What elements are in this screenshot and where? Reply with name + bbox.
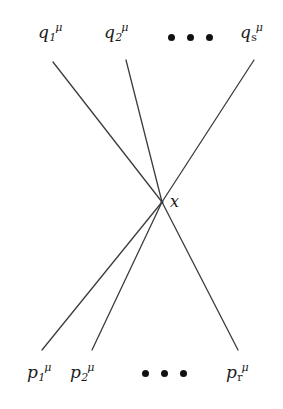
momentum-label-p1: p1μ (27, 362, 51, 383)
top-ellipsis (168, 34, 213, 41)
ellipsis-dot (142, 370, 149, 377)
label-superscript-mu: μ (121, 21, 128, 34)
ellipsis-dot (161, 370, 168, 377)
line-pr (162, 202, 238, 350)
label-superscript-mu: μ (55, 21, 62, 34)
label-base: p (226, 362, 237, 382)
momentum-label-q2: q2μ (104, 22, 128, 43)
line-qs (162, 60, 254, 202)
line-q1 (53, 62, 162, 202)
ellipsis-dot (187, 34, 194, 41)
label-base: q (240, 22, 251, 42)
label-superscript-mu: μ (44, 361, 51, 374)
momentum-label-qs: qsμ (240, 22, 263, 43)
momentum-label-p2: p2μ (70, 362, 94, 383)
vertex-label-x: x (170, 194, 179, 210)
line-q2 (126, 60, 162, 202)
ellipsis-dot (180, 370, 187, 377)
label-superscript-mu: μ (87, 361, 94, 374)
ellipsis-dot (168, 34, 175, 41)
momentum-label-q1: q1μ (38, 22, 62, 43)
label-base: p (70, 362, 81, 382)
label-superscript-mu: μ (256, 21, 263, 34)
feynman-vertex-diagram: q1μq2μqsμp1μp2μprμ x (0, 0, 283, 409)
vertex-point (160, 200, 163, 203)
ellipsis-dot (206, 34, 213, 41)
label-base: q (38, 22, 49, 42)
label-superscript-mu: μ (241, 361, 248, 374)
label-base: p (27, 362, 38, 382)
bottom-ellipsis (142, 370, 187, 377)
label-base: q (104, 22, 115, 42)
vertex-lines-group (42, 60, 254, 350)
momentum-label-pr: prμ (226, 362, 249, 383)
diagram-canvas (0, 0, 283, 409)
